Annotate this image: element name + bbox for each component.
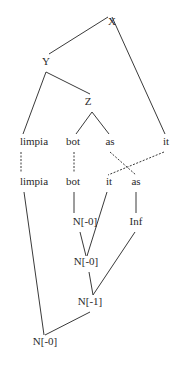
tree-edge <box>23 72 46 134</box>
node-inf: Inf <box>130 215 143 227</box>
node-it2: it <box>106 175 112 187</box>
tree-edge <box>46 72 90 94</box>
node-bot2: bot <box>66 175 80 187</box>
dashed-edge <box>108 152 164 175</box>
tree-edge <box>92 112 109 134</box>
derivation-tree: XYZlimpiabotasitlimpiabotitasN[-0]InfN[-… <box>0 0 177 367</box>
node-it1: it <box>163 135 169 147</box>
tree-edge <box>45 312 90 335</box>
node-limpia2: limpia <box>20 175 48 187</box>
tree-nodes: XYZlimpiabotasitlimpiabotitasN[-0]InfN[-… <box>20 15 169 347</box>
dashed-edge <box>110 152 136 175</box>
node-n0c: N[-0] <box>33 335 57 347</box>
tree-edge <box>76 112 92 134</box>
node-n1: N[-1] <box>78 295 102 307</box>
tree-edge <box>49 17 108 54</box>
node-Z: Z <box>85 95 92 107</box>
node-n0b: N[-0] <box>74 255 98 267</box>
node-bot1: bot <box>66 135 80 147</box>
node-limpia1: limpia <box>20 135 48 147</box>
node-Y: Y <box>42 55 50 67</box>
tree-edge <box>112 17 165 134</box>
tree-edge <box>80 232 86 256</box>
tree-edge <box>89 272 93 295</box>
node-X: X <box>108 15 116 27</box>
node-as2: as <box>131 175 140 187</box>
node-n0a: N[-0] <box>73 215 97 227</box>
tree-edge <box>24 192 44 335</box>
tree-edge <box>93 232 135 295</box>
node-as1: as <box>105 135 114 147</box>
